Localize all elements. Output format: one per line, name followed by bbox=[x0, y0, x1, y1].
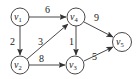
edge-weight-v1-v2: 2 bbox=[10, 36, 15, 47]
edge-weight-v4-v5: 9 bbox=[94, 12, 99, 23]
edge-v4-v5 bbox=[84, 22, 113, 37]
node-v3: v3 bbox=[66, 56, 84, 74]
edge-weight-v1-v4: 6 bbox=[45, 4, 50, 15]
edge-weight-v2-v3: 8 bbox=[39, 53, 44, 64]
node-v5: v5 bbox=[113, 33, 132, 52]
edge-weight-v2-v4: 3 bbox=[38, 36, 43, 47]
node-v1: v1 bbox=[11, 8, 29, 26]
node-v4: v4 bbox=[67, 8, 85, 26]
edge-weight-v4-v3: 1 bbox=[69, 36, 74, 47]
node-v2: v2 bbox=[11, 56, 29, 74]
edge-v2-v4 bbox=[27, 24, 68, 59]
edge-weight-v3-v5: 5 bbox=[92, 51, 97, 62]
edge-v3-v5 bbox=[84, 47, 113, 61]
graph-canvas: 6 2 3 1 8 9 5 v1 v2 v3 v4 v5 bbox=[0, 0, 137, 79]
